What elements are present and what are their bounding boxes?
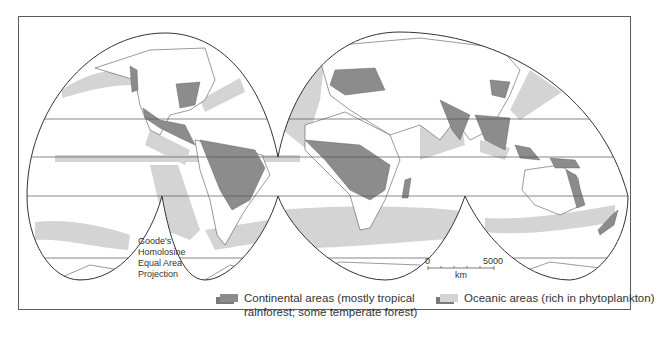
land-antarctica-mid <box>205 265 270 282</box>
forest-new-guinea <box>550 158 580 168</box>
ocean-west-pacific <box>510 70 562 120</box>
legend-swatch-oceanic <box>436 294 458 304</box>
legend-label: Continental areas (mostly tropical rainf… <box>244 291 417 319</box>
scale-unit-label: km <box>455 270 467 280</box>
land-antarctica-far-east <box>500 262 600 282</box>
legend-label-line: rainforest; some temperate forest) <box>244 305 417 319</box>
legend-label-line: Continental areas (mostly tropical <box>244 291 417 305</box>
legend-label: Oceanic areas (rich in phytoplankton) <box>464 291 655 305</box>
forest-pacific-northwest <box>130 66 138 92</box>
legend-swatch-continental <box>216 294 238 304</box>
scale-end-label: 5000 <box>483 256 503 266</box>
projection-label: Goode's Homolosine Equal Area Projection <box>138 236 186 280</box>
projection-label-line: Projection <box>138 269 186 280</box>
forest-madagascar <box>402 178 411 198</box>
scale-start-label: 0 <box>425 256 430 266</box>
ocean-south-pacific <box>35 221 130 250</box>
land-antarctica-east <box>290 262 430 282</box>
legend-continental: Continental areas (mostly tropical rainf… <box>216 291 417 319</box>
forest-indonesia <box>515 145 540 160</box>
projection-label-line: Goode's <box>138 236 186 247</box>
ocean-west-south-america <box>150 165 200 240</box>
projection-label-line: Equal Area <box>138 258 186 269</box>
legend-oceanic: Oceanic areas (rich in phytoplankton) <box>436 291 655 305</box>
projection-label-line: Homolosine <box>138 247 186 258</box>
